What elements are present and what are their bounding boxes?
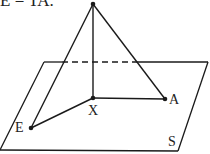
edge-xe (31, 98, 93, 128)
label-e: E (15, 120, 24, 135)
pyramid-diagram: X A E S (0, 0, 210, 154)
plane-bottom-edge (0, 150, 178, 151)
label-s: S (168, 134, 176, 149)
edge-te (31, 4, 93, 128)
plane-left-edge (0, 62, 44, 150)
vertex-x (91, 96, 96, 101)
plane-right-edge (178, 62, 208, 151)
label-a: A (169, 92, 180, 107)
vertex-a (163, 97, 168, 102)
label-x: X (88, 103, 98, 118)
vertex-t (91, 2, 96, 7)
edge-xa (93, 98, 165, 99)
edge-ta (93, 4, 165, 99)
vertex-e (29, 126, 34, 131)
